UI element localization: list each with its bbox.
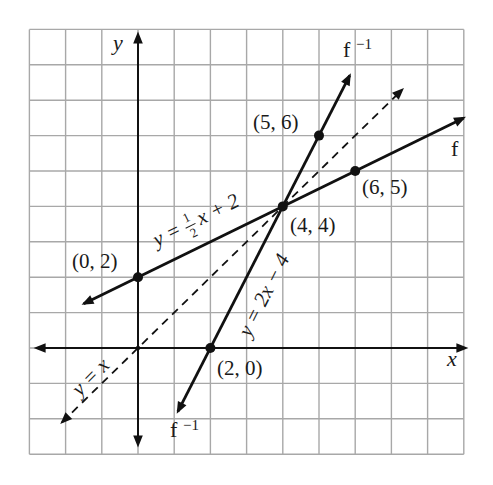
point-label-6-5: (6, 5) [362,175,408,199]
point-6-5 [350,166,360,176]
y-axis-label: y [111,30,123,55]
point-label-5-6: (5, 6) [253,110,299,134]
inverse-functions-graph: y x f f −1 f −1 y = 1 2 x + 2 y = 2x − 4… [0,0,493,485]
svg-text:x + 2: x + 2 [191,188,243,230]
point-5-6 [314,131,324,141]
svg-text:y =: y = [147,217,185,252]
finv-bottom-label: f −1 [170,417,199,442]
equation-f-label: y = 1 2 x + 2 [146,186,246,257]
svg-text:−1: −1 [356,36,372,52]
f-label: f [451,136,459,161]
point-label-2-0: (2, 0) [217,356,263,380]
svg-text:f: f [170,417,178,442]
point-label-0-2: (0, 2) [72,249,118,273]
point-2-0 [205,343,215,353]
point-label-4-4: (4, 4) [290,213,336,237]
svg-text:1: 1 [180,209,193,225]
equation-finv-label: y = 2x − 4 [232,249,294,342]
x-axis-label: x [446,346,457,371]
svg-text:2: 2 [187,224,200,240]
svg-text:f: f [343,37,351,62]
point-0-2 [133,272,143,282]
svg-text:−1: −1 [183,417,199,433]
point-4-4 [278,201,288,211]
finv-top-label: f −1 [343,36,372,62]
